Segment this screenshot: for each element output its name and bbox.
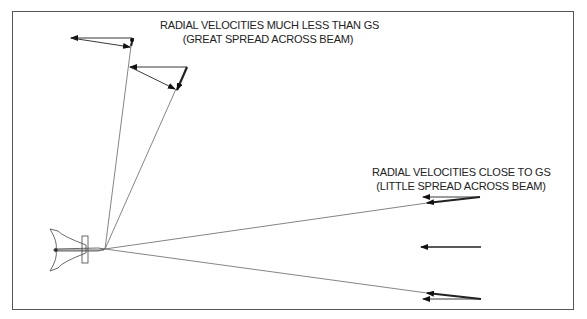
arrow-icon (427, 197, 480, 203)
velocity-arrows-group-2 (130, 67, 187, 90)
beam-line-upper-left (105, 46, 131, 249)
caption-much-less-than-gs: RADIAL VELOCITIES MUCH LESS THAN GS (GRE… (160, 18, 376, 46)
beam-line-upper-right (105, 89, 176, 249)
velocity-arrows-group-1 (71, 38, 134, 47)
diagram-canvas (0, 0, 587, 319)
arrow-icon (71, 38, 130, 47)
caption-line-2: (GREAT SPREAD ACROSS BEAM) (160, 32, 376, 46)
beam-line-right-top (105, 203, 427, 249)
caption-close-to-gs: RADIAL VELOCITIES CLOSE TO GS (LITTLE SP… (372, 165, 550, 193)
arrow-icon (177, 67, 187, 90)
arrow-icon (130, 67, 175, 89)
caption-line-2: (LITTLE SPREAD ACROSS BEAM) (372, 179, 550, 193)
velocity-arrows-group-3 (423, 197, 480, 203)
caption-line-1: RADIAL VELOCITIES CLOSE TO GS (372, 165, 550, 179)
velocity-arrows-group-5 (423, 293, 481, 299)
aircraft-icon (50, 229, 105, 271)
caption-line-1: RADIAL VELOCITIES MUCH LESS THAN GS (160, 18, 376, 32)
beam-line-right-bottom (105, 249, 427, 293)
arrow-icon (427, 293, 481, 299)
